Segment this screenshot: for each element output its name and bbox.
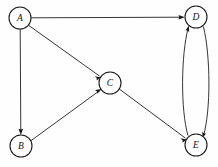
edge-a-to-c-line [29, 25, 100, 76]
node-c-label: C [107, 78, 114, 88]
edge-a-to-b [19, 29, 24, 135]
node-b[interactable]: B [10, 135, 32, 157]
edge-c-to-e-line [119, 89, 185, 138]
node-d-label: D [192, 12, 200, 22]
node-e[interactable]: E [185, 134, 207, 156]
edge-a-to-d-line [31, 17, 182, 18]
directed-graph-diagram: A B C D E [0, 0, 218, 167]
edge-a-to-d-arrowhead [179, 15, 185, 20]
node-a-label: A [16, 13, 23, 23]
node-d[interactable]: D [185, 6, 207, 28]
edge-c-to-e [119, 89, 187, 142]
edge-d-to-e [202, 27, 209, 139]
edge-a-to-b-arrowhead [19, 129, 24, 135]
edge-b-to-c-line [31, 90, 100, 141]
node-e-label: E [192, 140, 199, 150]
node-a[interactable]: A [9, 7, 31, 29]
edge-e-to-d [183, 26, 190, 136]
node-c[interactable]: C [99, 72, 121, 94]
edge-b-to-c [31, 89, 102, 141]
edge-d-to-e-curve [203, 27, 209, 137]
edge-a-to-b-line [20, 29, 21, 133]
edge-a-to-c [29, 25, 102, 80]
edge-a-to-d [31, 15, 185, 20]
edge-e-to-d-curve [183, 28, 189, 136]
node-b-label: B [18, 141, 24, 151]
